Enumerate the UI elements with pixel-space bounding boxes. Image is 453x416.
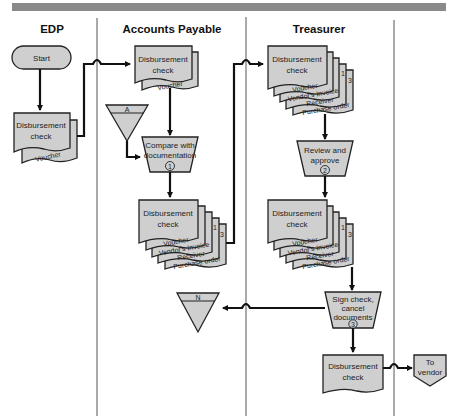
edp-document-check-voucher: Disbursement check Voucher <box>14 113 77 163</box>
process2-label-1: Review and <box>304 146 346 155</box>
flow-sign-to-file-n <box>223 304 325 308</box>
process3-label-1: Sign check, <box>332 295 373 304</box>
start-label: Start <box>33 54 51 63</box>
treas-bundle2-label-1: Disbursement <box>272 209 322 218</box>
ap-bundle-label-2: check <box>158 220 180 229</box>
lane-title-accounts-payable: Accounts Payable <box>122 23 221 35</box>
flow-file-a-to-compare <box>127 141 140 157</box>
process2-label-2: approve <box>311 156 340 165</box>
final-check-label-2: check <box>343 373 365 382</box>
treas-bundle1-num-1: 1 <box>341 70 345 77</box>
ap-document-bundle: Disbursement check Voucher Vendor's Invo… <box>139 200 226 270</box>
ap-bundle-num-1: 1 <box>213 224 217 231</box>
start-terminal: Start <box>12 46 71 69</box>
flowchart-canvas: EDP Accounts Payable Treasurer Start Dis… <box>0 0 453 416</box>
process1-label-2: documentation <box>144 151 196 160</box>
process-review-and-approve: Review and approve 2 <box>297 141 353 176</box>
flow-ap-to-treasurer <box>226 60 263 243</box>
edp-doc-label-2: check <box>31 132 53 141</box>
file-a-label: A <box>125 106 130 113</box>
file-a-offline-storage: A <box>106 105 148 141</box>
ap-doc-label-2: check <box>153 66 175 75</box>
final-check-label-1: Disbursement <box>328 362 378 371</box>
treasurer-document-bundle-2: Disbursement check Voucher Vendor's Invo… <box>268 200 353 270</box>
treas-bundle1-num-3: 3 <box>348 77 352 84</box>
file-n-label: N <box>195 294 200 301</box>
lane-title-edp: EDP <box>40 23 64 35</box>
lane-title-treasurer: Treasurer <box>293 23 346 35</box>
header-bar <box>12 3 446 11</box>
offpage-label-1: To <box>426 358 435 367</box>
treas-bundle2-num-3: 3 <box>348 231 352 238</box>
process1-label-1: Compare with <box>145 141 194 150</box>
treas-bundle2-label-2: check <box>287 220 309 229</box>
offpage-label-2: vendor <box>418 368 443 377</box>
process3-number: 3 <box>351 321 355 328</box>
ap-bundle-label-1: Disbursement <box>143 209 193 218</box>
process-sign-check-cancel-documents: Sign check, cancel documents 3 <box>325 292 381 328</box>
process-compare-with-documentation: Compare with documentation 1 <box>142 137 198 172</box>
ap-document-check-voucher: Disbursement check Voucher <box>135 46 198 91</box>
final-disbursement-check-document: Disbursement check <box>323 355 383 393</box>
process2-number: 2 <box>323 167 327 174</box>
file-n-offline-storage: N <box>177 293 219 332</box>
treas-bundle2-num-1: 1 <box>341 224 345 231</box>
ap-bundle-num-3: 3 <box>220 231 224 238</box>
process3-label-2: cancel <box>341 304 364 313</box>
treasurer-document-bundle-1: Disbursement check Voucher Vendor's Invo… <box>268 46 353 116</box>
ap-doc-label-1: Disbursement <box>138 55 188 64</box>
treas-bundle1-label-2: check <box>287 66 309 75</box>
offpage-connector-to-vendor: To vendor <box>414 355 446 386</box>
process1-number: 1 <box>168 163 172 170</box>
flow-check-to-vendor <box>383 364 412 368</box>
edp-doc-label-1: Disbursement <box>16 121 66 130</box>
treas-bundle1-label-1: Disbursement <box>272 55 322 64</box>
